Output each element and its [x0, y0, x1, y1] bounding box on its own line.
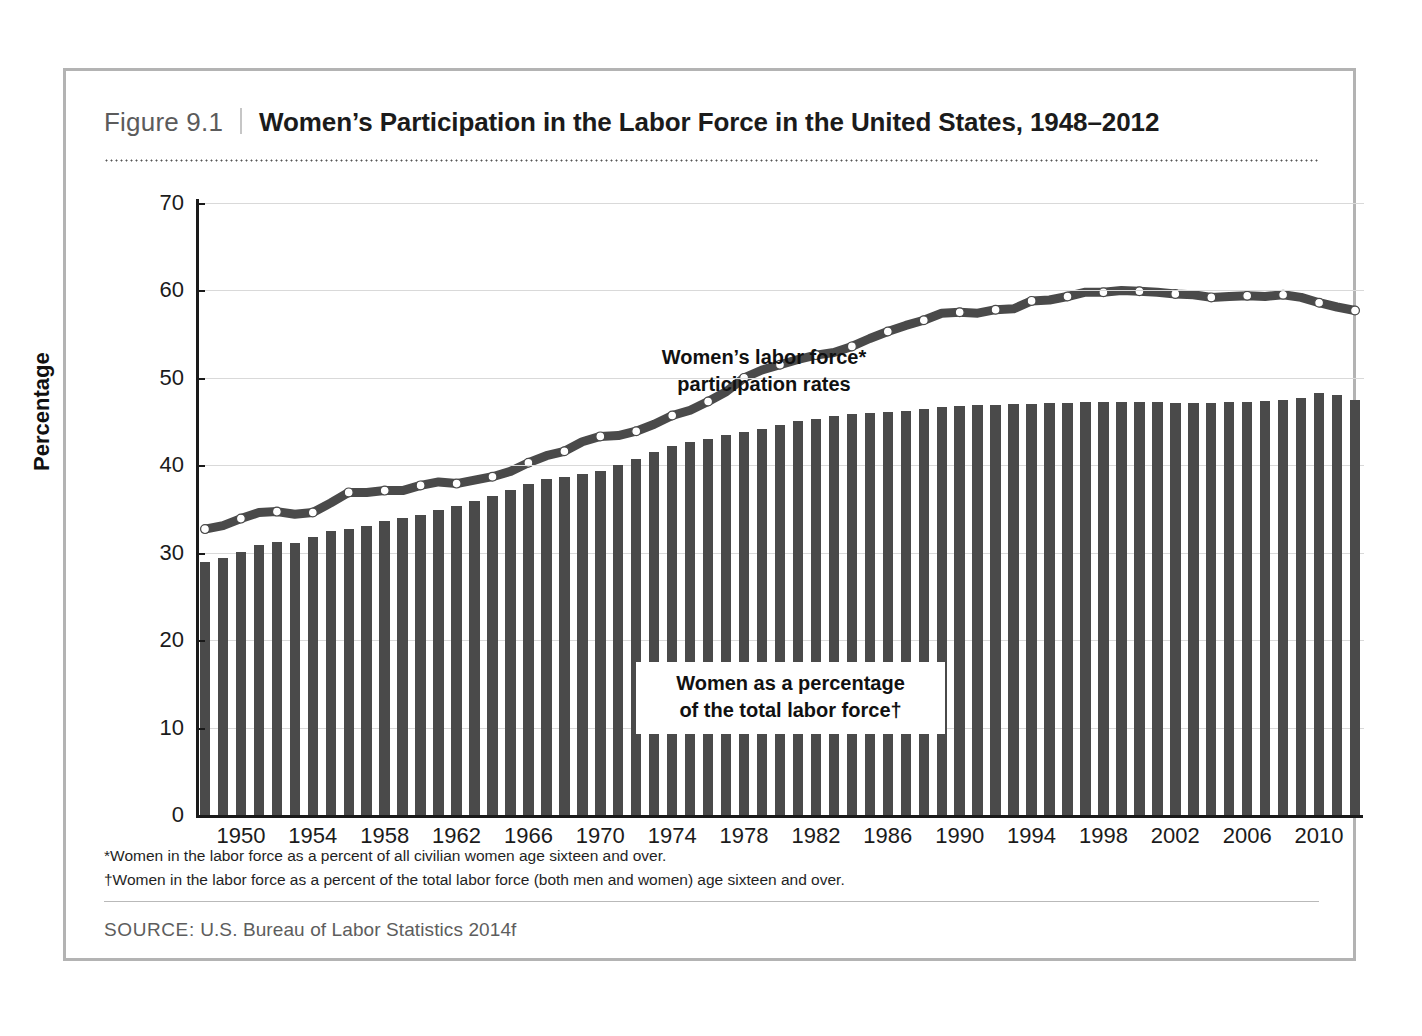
line-marker [201, 525, 210, 534]
x-tick-label: 2006 [1223, 823, 1272, 849]
line-marker [1027, 297, 1036, 306]
line-marker [704, 397, 713, 406]
line-marker [668, 411, 677, 420]
bar [811, 419, 821, 815]
bar [685, 442, 695, 815]
bar [865, 413, 875, 815]
bar [326, 531, 336, 815]
gridline [196, 290, 1364, 291]
bar [613, 465, 623, 815]
bar [1026, 404, 1036, 815]
bar [218, 558, 228, 815]
figure-header: Figure 9.1 Women’s Participation in the … [104, 105, 1159, 145]
bar [954, 406, 964, 815]
bar [793, 421, 803, 815]
annotation-line-row1: Women’s labor force* [614, 344, 914, 371]
bar [1278, 400, 1288, 815]
bar [883, 412, 893, 815]
x-tick-label: 1954 [288, 823, 337, 849]
bar [703, 439, 713, 815]
bar [397, 518, 407, 815]
y-tick-label: 20 [160, 627, 184, 653]
bar [272, 542, 282, 815]
y-tick-mark [196, 290, 205, 292]
line-marker [919, 316, 928, 325]
line-marker [488, 472, 497, 481]
title-separator [240, 108, 242, 134]
figure-number: Figure 9.1 [104, 107, 223, 138]
footnote-2: †Women in the labor force as a percent o… [104, 868, 1284, 892]
y-tick-mark [196, 465, 205, 467]
y-tick-label: 50 [160, 365, 184, 391]
figure-frame: Figure 9.1 Women’s Participation in the … [63, 68, 1356, 961]
line-marker [273, 507, 282, 516]
bar [757, 429, 767, 815]
bar [254, 545, 264, 815]
x-tick-label: 1982 [791, 823, 840, 849]
y-tick-label: 40 [160, 452, 184, 478]
x-tick-label: 1958 [360, 823, 409, 849]
y-axis-title: Percentage [29, 352, 55, 471]
x-tick-label: 1974 [648, 823, 697, 849]
bar [415, 515, 425, 815]
bar [290, 543, 300, 815]
title-dotted-rule [104, 159, 1319, 162]
bar [631, 459, 641, 815]
bar [1062, 403, 1072, 815]
bar [1188, 403, 1198, 815]
bar [919, 409, 929, 815]
bar [1116, 402, 1126, 815]
line-marker [1063, 292, 1072, 301]
y-tick-mark [196, 553, 205, 555]
y-tick-label: 10 [160, 715, 184, 741]
annotation-bar-row2: of the total labor force† [642, 697, 939, 724]
line-marker [1207, 293, 1216, 302]
y-tick-label: 60 [160, 277, 184, 303]
bar [990, 405, 1000, 815]
bar [1332, 395, 1342, 815]
x-tick-label: 1950 [216, 823, 265, 849]
y-tick-mark [196, 640, 205, 642]
bar [1242, 402, 1252, 815]
source-rule [104, 901, 1319, 902]
annotation-line-series: Women’s labor force* participation rates [614, 344, 914, 398]
bar [1296, 398, 1306, 815]
line-marker [1279, 290, 1288, 299]
bar [972, 405, 982, 815]
bar [1008, 404, 1018, 815]
x-tick-label: 1994 [1007, 823, 1056, 849]
bar [559, 477, 569, 815]
bar [739, 432, 749, 815]
line-marker [1243, 291, 1252, 300]
bar [1044, 403, 1054, 815]
bar [847, 414, 857, 815]
line-marker [560, 447, 569, 456]
x-axis-line [196, 815, 1363, 818]
line-marker [991, 305, 1000, 314]
x-tick-label: 2010 [1295, 823, 1344, 849]
y-tick-mark [196, 378, 205, 380]
bar [1134, 402, 1144, 815]
bar [1314, 393, 1324, 815]
bar [308, 537, 318, 815]
bar [200, 562, 210, 815]
bar [236, 552, 246, 815]
x-tick-label: 1970 [576, 823, 625, 849]
bar [1080, 402, 1090, 815]
bar [667, 446, 677, 815]
line-marker [380, 486, 389, 495]
footnotes: *Women in the labor force as a percent o… [104, 844, 1284, 892]
line-marker [1351, 306, 1360, 315]
bar [1098, 402, 1108, 815]
bar [487, 496, 497, 815]
line-marker [416, 481, 425, 490]
bar [901, 411, 911, 815]
line-marker [883, 327, 892, 336]
x-tick-label: 2002 [1151, 823, 1200, 849]
bar [649, 452, 659, 815]
source-line: SOURCE: U.S. Bureau of Labor Statistics … [104, 919, 516, 941]
x-tick-label: 1966 [504, 823, 553, 849]
bar [523, 484, 533, 815]
y-axis-tick-labels: 010203040506070 [122, 203, 184, 815]
bar [505, 490, 515, 815]
